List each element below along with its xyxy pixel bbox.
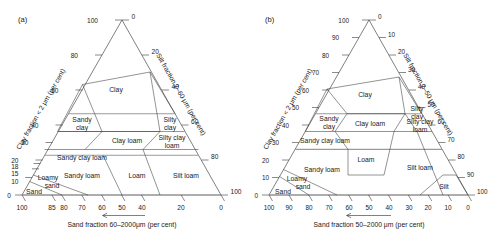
panel-b-left-tick-80: 80 [322,52,330,59]
panel-b-left-tick-10: 10 [262,174,270,181]
panel-b-left-tick-20: 20 [262,157,270,164]
panel-b-right-tick-90: 90 [467,171,475,178]
panel-a-bottom-tick-60: 60 [98,204,106,211]
panel-a-left-ticks [15,20,122,195]
panel-a-left-tick-80: 80 [71,52,79,59]
panel-a-left-tick-15: 15 [11,170,19,177]
panel-a-right-tick-100: 100 [231,188,242,195]
panel-b-clayloam-siltyclayloam [394,114,405,132]
panel-b-bottom-tick-80: 80 [305,204,313,211]
panel-a-sandyclayloam-right [85,132,102,150]
panel-b-region-sandy-loam: Sandy loam [304,166,340,174]
panel-a-clay-right-lower [150,72,160,132]
panel-a-clay-bottom [83,72,151,85]
panel-a-bottom-tick-50: 50 [118,204,126,211]
panel-b-right-tick-10: 10 [388,31,396,38]
panel-b-bottom-axis-title: Sand fraction 50–2000 μm (per cent) [314,221,425,229]
panel-b-region-sand: Sand [275,188,291,195]
panel-b-region-clay: Clay [358,91,372,99]
panel-a-left-tick-10: 10 [11,178,19,185]
panel-b-left-tick-70: 70 [312,69,320,76]
panel-a-region-sandy-loam: Sandy loam [64,172,100,180]
panel-a: (a) [0,0,248,234]
panel-a-bottom-tick-70: 70 [78,204,86,211]
panel-a-region-loamy-sand-2: sand [45,182,60,189]
panel-b-region-loam: Loam [357,156,374,163]
panel-a-right-tick-0: 0 [132,13,136,20]
panel-b-bottom-tick-30: 30 [405,204,413,211]
panel-b-region-silty-clay-loam-2: loam [413,126,428,133]
panel-b-bottom-tick-90: 90 [285,204,293,211]
panel-a-bottom-tick-80: 80 [60,204,68,211]
panel-a-direction-arrow [103,213,146,217]
panel-a-left-tick-100: 100 [87,17,98,24]
panel-b-region-loamy-sand-2: sand [296,183,311,190]
panel-a-loam-left [103,155,122,195]
panel-b-right-tick-100: 100 [477,188,488,195]
figure-root: (a) [0,0,495,234]
panel-b-bottom-tick-50: 50 [365,204,373,211]
panel-a-loam-right [143,150,160,196]
panel-b-right-tick-0: 0 [378,13,382,20]
panel-b-region-clay-loam: Clay loam [355,120,386,128]
panel-b-left-tick-90: 90 [332,34,340,41]
panel-a-bottom-axis-title: Sand fraction 60–2000μm (per cent) [68,221,177,229]
panel-a-bottom-tick-0: 0 [219,204,223,211]
panel-a-bottom-tick-20: 20 [177,204,185,211]
panel-a-region-silt-loam: Silt loam [173,172,199,179]
panel-b-clay-bottom [327,77,399,89]
panel-a-clayloam-siltyclayloam [143,132,160,150]
panel-b-region-silt: Silt [439,183,449,190]
panel-b-left-tick-0: 0 [254,192,258,199]
panel-b-loam-right [384,132,394,176]
panel-a-region-sand: Sand [26,188,42,195]
panel-b-bottom-tick-10: 10 [444,204,452,211]
panel-b-diagram: (b) [247,0,495,234]
panel-a-region-sandy-clay-2: clay [76,124,89,132]
panel-b-bottom-ticks [269,195,472,201]
panel-a-region-clay-loam: Clay loam [112,137,143,145]
panel-a-region-sandy-clay-loam: Sandy clay loam [57,154,107,162]
panel-a-region-clay: Clay [109,86,123,94]
panel-a-diagram: (a) [0,0,248,234]
panel-b-bottom-tick-70: 70 [325,204,333,211]
panel-a-label: (a) [18,15,28,24]
panel-a-left-tick-0: 0 [7,192,11,199]
panel-b: (b) [247,0,495,234]
panel-a-bottom-tick-100: 100 [16,204,27,211]
panel-a-region-loam: Loam [128,172,145,179]
panel-a-right-ticks [122,20,228,195]
panel-b-direction-arrow [347,213,392,217]
panel-b-region-sandy-clay-2: clay [323,123,336,131]
panel-b-region-silt-loam: Silt loam [407,164,433,171]
panel-a-left-axis-title: Clay fraction < 2 μm (per cent) [15,67,67,151]
panel-a-bottom-tick-85: 85 [48,204,56,211]
panel-b-region-sandy-clay-loam: Sandy clay loam [300,137,350,145]
panel-a-bottom-tick-40: 40 [138,204,146,211]
panel-b-left-tick-100: 100 [338,17,349,24]
panel-b-bottom-tick-20: 20 [424,204,432,211]
panel-b-bottom-tick-0: 0 [466,204,470,211]
panel-b-right-tick-70: 70 [448,136,456,143]
panel-a-right-tick-80: 80 [211,153,219,160]
panel-b-bottom-tick-100: 100 [264,204,275,211]
panel-a-region-silty-clay-2: clay [164,124,177,132]
panel-b-bottom-tick-60: 60 [345,204,353,211]
panel-b-silt-right [456,175,468,195]
panel-b-right-tick-80: 80 [458,153,466,160]
panel-a-region-silty-clay-loam-2: loam [165,142,180,149]
panel-a-bottom-ticks [22,195,225,201]
panel-b-bottom-tick-40: 40 [385,204,393,211]
panel-b-label: (b) [265,15,275,24]
panel-b-clay-left-lower [327,89,347,114]
